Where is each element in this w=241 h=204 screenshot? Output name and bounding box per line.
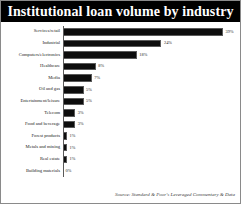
bar	[63, 144, 67, 152]
category-label: Food and beverage	[1, 122, 63, 127]
bar-row: Computers/electronics18%	[1, 49, 238, 61]
bar-row: Entertainment/leisure5%	[1, 96, 238, 108]
bar	[63, 74, 92, 82]
bar	[63, 121, 75, 129]
category-label: Entertainment/leisure	[1, 99, 63, 104]
bar-row: Metals and mining1%	[1, 142, 238, 154]
bar-row: Media7%	[1, 72, 238, 84]
value-label: 8%	[98, 64, 104, 68]
chart-title-banner: Institutional loan volume by industry	[1, 1, 240, 22]
bar	[63, 132, 67, 140]
value-label: 39%	[226, 30, 234, 34]
value-label: 7%	[94, 76, 100, 80]
bar-row: Oil and gas5%	[1, 84, 238, 96]
bar-row: Food and beverage3%	[1, 119, 238, 131]
bar	[63, 109, 75, 117]
bar-track: 7%	[63, 72, 238, 84]
bar-row: Building materials0%	[1, 165, 238, 177]
value-label: 1%	[70, 146, 76, 150]
category-label: Building materials	[1, 169, 63, 174]
value-label: 3%	[78, 111, 84, 115]
bar-track: 3%	[63, 107, 238, 119]
bar-track: 18%	[63, 49, 238, 61]
value-label: 0%	[66, 169, 72, 173]
bar	[63, 51, 137, 59]
source-note: Source: Standard & Poor's Leveraged Comm…	[115, 192, 235, 197]
chart-card: Institutional loan volume by industry Se…	[0, 0, 241, 204]
category-label: Forest products	[1, 134, 63, 139]
category-label: Services/retail	[1, 29, 63, 34]
bar-track: 8%	[63, 61, 238, 73]
bar-track: 1%	[63, 130, 238, 142]
value-label: 18%	[139, 53, 147, 57]
bar-track: 39%	[63, 26, 238, 38]
bar-row: Services/retail39%	[1, 26, 238, 38]
value-label: 3%	[78, 122, 84, 126]
category-label: Telecom	[1, 111, 63, 116]
bar-row: Forest products1%	[1, 130, 238, 142]
bar	[63, 40, 161, 48]
category-label: Healthcare	[1, 64, 63, 69]
bar-track: 5%	[63, 96, 238, 108]
page-title: Institutional loan volume by industry	[7, 5, 233, 19]
bar-track: 5%	[63, 84, 238, 96]
bar-track: 0%	[63, 165, 238, 177]
value-label: 5%	[86, 99, 92, 103]
bar-track: 3%	[63, 119, 238, 131]
category-label: Oil and gas	[1, 87, 63, 92]
category-label: Metals and mining	[1, 145, 63, 150]
value-label: 1%	[70, 157, 76, 161]
value-label: 1%	[70, 134, 76, 138]
bar-row: Healthcare8%	[1, 61, 238, 73]
bar	[63, 98, 84, 106]
bar	[63, 156, 67, 164]
plot-area: Services/retail39%Industrial24%Computers…	[1, 22, 240, 177]
category-label: Media	[1, 76, 63, 81]
bar	[63, 28, 223, 36]
bar-row: Real estate1%	[1, 154, 238, 166]
bar-track: 1%	[63, 142, 238, 154]
bar-track: 24%	[63, 38, 238, 50]
bar-row: Telecom3%	[1, 107, 238, 119]
bar-series: Services/retail39%Industrial24%Computers…	[1, 26, 238, 177]
category-label: Real estate	[1, 157, 63, 162]
value-label: 24%	[164, 41, 172, 45]
bar	[63, 63, 96, 71]
bar	[63, 86, 84, 94]
category-label: Industrial	[1, 41, 63, 46]
category-label: Computers/electronics	[1, 53, 63, 58]
bar-track: 1%	[63, 154, 238, 166]
bar-row: Industrial24%	[1, 38, 238, 50]
value-label: 5%	[86, 88, 92, 92]
